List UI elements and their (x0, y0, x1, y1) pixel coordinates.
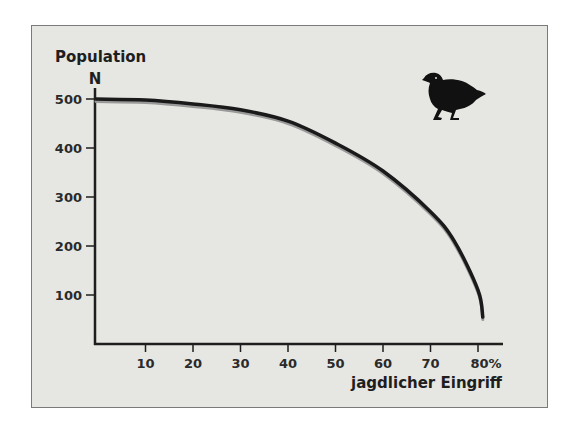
x-tick-label: 60 (374, 356, 392, 371)
x-tick-label: 70 (421, 356, 439, 371)
x-axis-ticks: 1020304050607080% (136, 344, 501, 371)
x-tick-label: 80% (470, 356, 501, 371)
x-tick-label: 10 (136, 356, 154, 371)
y-tick-label: 100 (55, 288, 82, 303)
x-tick-label: 50 (326, 356, 344, 371)
x-tick-label: 30 (231, 356, 249, 371)
population-curve (96, 99, 483, 317)
x-tick-label: 20 (184, 356, 202, 371)
population-chart: Population N jagdlicher Eingriff 1002003… (0, 0, 567, 427)
y-axis-ticks: 100200300400500 (55, 92, 95, 303)
x-tick-label: 40 (279, 356, 297, 371)
y-tick-label: 200 (55, 239, 82, 254)
x-axis-title: jagdlicher Eingriff (350, 374, 503, 392)
curve-shadow (96, 102, 483, 320)
y-tick-label: 300 (55, 190, 82, 205)
y-axis-symbol: N (89, 70, 102, 88)
y-axis-title: Population (55, 48, 146, 66)
y-tick-label: 500 (55, 92, 82, 107)
quail-bird-icon (422, 73, 486, 120)
y-tick-label: 400 (55, 141, 82, 156)
